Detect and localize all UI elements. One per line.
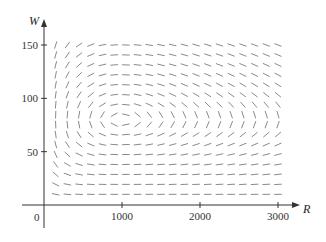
field-segment — [122, 114, 129, 116]
field-segment — [239, 54, 246, 57]
field-segment — [76, 43, 82, 47]
field-segment — [88, 83, 94, 87]
field-segment — [134, 74, 142, 75]
field-segment — [135, 112, 141, 117]
field-segment — [100, 122, 104, 128]
field-segment — [275, 83, 281, 87]
field-segment — [193, 83, 200, 86]
field-segment — [75, 174, 82, 175]
field-segment — [239, 143, 246, 146]
field-segment — [67, 101, 69, 108]
field-segment — [65, 52, 69, 58]
field-segment — [169, 164, 177, 165]
field-segment — [88, 92, 94, 97]
field-segment — [99, 74, 106, 76]
field-segment — [204, 54, 211, 56]
field-segment — [240, 83, 247, 87]
field-segment — [252, 102, 257, 108]
field-segment — [134, 94, 141, 96]
field-segment — [228, 44, 235, 46]
field-segment — [242, 111, 244, 118]
field-segment — [90, 121, 92, 128]
field-segment — [169, 44, 176, 46]
y-axis-label: W — [29, 14, 40, 28]
field-segment — [52, 194, 59, 196]
field-segment — [134, 55, 142, 56]
field-segment — [192, 154, 199, 155]
field-segment — [157, 84, 164, 86]
field-segment — [122, 124, 129, 126]
field-segment — [99, 144, 106, 146]
field-segment — [55, 61, 57, 68]
field-segment — [216, 154, 223, 156]
field-segment — [146, 74, 153, 76]
field-segment — [88, 132, 94, 137]
field-segment — [181, 154, 188, 155]
field-segment — [228, 83, 235, 87]
field-segment — [65, 42, 69, 48]
field-segment — [275, 143, 282, 146]
field-segment — [99, 103, 105, 107]
field-segment — [239, 174, 247, 175]
field-segment — [183, 121, 186, 128]
field-segment — [265, 121, 268, 128]
field-segment — [55, 101, 56, 109]
field-segment — [99, 44, 106, 45]
field-segment — [251, 154, 258, 156]
field-segment — [146, 144, 153, 145]
field-segment — [181, 102, 187, 107]
field-segment — [264, 102, 269, 108]
field-segment — [101, 111, 105, 118]
field-segment — [55, 131, 56, 139]
field-segment — [274, 154, 281, 156]
field-segment — [263, 164, 271, 165]
field-segment — [204, 164, 212, 165]
field-segment — [216, 164, 224, 165]
field-segment — [251, 174, 259, 175]
field-segment — [228, 73, 235, 76]
field-segment — [146, 84, 153, 86]
field-segment — [55, 41, 57, 48]
field-segment — [263, 174, 271, 175]
field-segment — [110, 134, 118, 135]
field-segment — [181, 44, 188, 46]
field-segment — [181, 83, 188, 86]
field-segment — [157, 74, 164, 76]
field-segment — [230, 111, 232, 118]
field-segment — [111, 113, 118, 117]
field-segment — [216, 64, 223, 67]
field-segment — [171, 121, 175, 128]
field-segment — [192, 44, 199, 46]
field-segment — [263, 44, 270, 47]
field-segment — [277, 111, 279, 118]
field-segment — [193, 93, 200, 97]
field-segment — [146, 94, 153, 96]
field-segment — [228, 132, 234, 137]
direction-field-plot: 100020003000 50100150 R W 0 — [0, 0, 326, 242]
field-segment — [216, 93, 222, 97]
field-segment — [157, 93, 164, 96]
field-segment — [230, 121, 233, 128]
field-segment — [99, 164, 107, 165]
field-segment — [99, 84, 106, 86]
field-segment — [216, 54, 223, 57]
field-segment — [110, 84, 118, 85]
field-segment — [87, 44, 94, 47]
field-segment — [146, 103, 153, 106]
field-segment — [157, 164, 165, 165]
field-segment — [77, 131, 81, 137]
field-segment — [147, 122, 152, 128]
field-segment — [206, 111, 209, 118]
field-segment — [253, 111, 255, 118]
field-segment — [275, 63, 282, 66]
field-segment — [146, 44, 154, 45]
field-segment — [146, 154, 154, 155]
field-segment — [78, 121, 79, 128]
field-segment — [228, 93, 234, 97]
field-segment — [192, 54, 199, 56]
field-segment — [181, 54, 188, 56]
field-segment — [239, 44, 246, 47]
field-segment — [217, 102, 222, 107]
field-segment — [227, 174, 235, 175]
field-segment — [181, 164, 189, 165]
